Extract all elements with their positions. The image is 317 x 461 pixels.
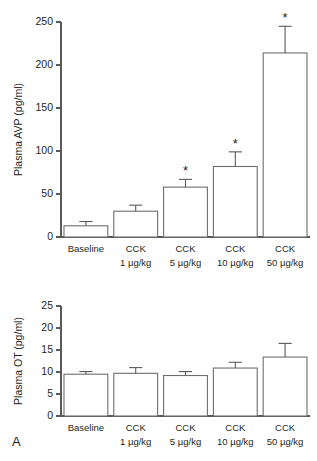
significance-marker: * (183, 163, 188, 178)
x-axis-category-label: CCK (175, 422, 196, 433)
x-axis-category-label: 1 µg/kg (120, 257, 151, 268)
y-axis-tick-label: 0 (47, 230, 53, 242)
x-axis-category-label: 10 µg/kg (217, 436, 254, 447)
significance-marker: * (233, 136, 238, 151)
bar (213, 368, 257, 416)
x-axis-category-label: 1 µg/kg (120, 436, 151, 447)
bar (213, 166, 257, 237)
bar (164, 376, 208, 416)
plasma-ot-plot-area: 0510152025Plasma OT (pg/ml)BaselineCCK1 … (0, 281, 317, 461)
y-axis-tick-label: 0 (47, 409, 53, 421)
bar (263, 53, 307, 237)
y-axis-title: Plasma OT (pg/ml) (12, 317, 24, 405)
x-axis-category-label: CCK (275, 243, 296, 254)
chart-plasma-ot: 0510152025Plasma OT (pg/ml)BaselineCCK1 … (0, 281, 317, 461)
y-axis-tick-label: 15 (41, 343, 53, 355)
plasma-avp-plot-area: 050100150200250Plasma AVP (pg/ml)Baselin… (0, 0, 317, 281)
x-axis-category-label: CCK (126, 243, 147, 254)
x-axis-category-label: CCK (275, 422, 296, 433)
y-axis-title: Plasma AVP (pg/ml) (12, 83, 24, 176)
y-axis-tick-label: 150 (35, 101, 53, 113)
y-axis-tick-label: 50 (41, 187, 53, 199)
figure-container: 050100150200250Plasma AVP (pg/ml)Baselin… (0, 0, 317, 461)
x-axis-category-label: CCK (225, 243, 246, 254)
x-axis-category-label: Baseline (68, 422, 104, 433)
x-axis-category-label: 50 µg/kg (267, 257, 304, 268)
x-axis-category-label: CCK (175, 243, 196, 254)
y-axis-tick-label: 250 (35, 15, 53, 27)
y-axis-tick-label: 200 (35, 58, 53, 70)
chart-plasma-avp: 050100150200250Plasma AVP (pg/ml)Baselin… (0, 0, 317, 281)
x-axis-category-label: CCK (126, 422, 147, 433)
bar (114, 373, 158, 416)
y-axis-tick-label: 5 (47, 387, 53, 399)
x-axis-category-label: Baseline (68, 243, 104, 254)
panel-label-a: A (12, 434, 21, 449)
x-axis-category-label: 10 µg/kg (217, 257, 254, 268)
x-axis-category-label: 5 µg/kg (170, 257, 201, 268)
bar (263, 357, 307, 416)
bar (64, 374, 108, 416)
y-axis-tick-label: 25 (41, 299, 53, 311)
bar (64, 226, 108, 237)
y-axis-tick-label: 100 (35, 144, 53, 156)
x-axis-category-label: 50 µg/kg (267, 436, 304, 447)
bar (164, 187, 208, 237)
x-axis-category-label: 5 µg/kg (170, 436, 201, 447)
y-axis-tick-label: 10 (41, 365, 53, 377)
x-axis-category-label: CCK (225, 422, 246, 433)
y-axis-tick-label: 20 (41, 321, 53, 333)
bar (114, 211, 158, 237)
significance-marker: * (283, 10, 288, 25)
